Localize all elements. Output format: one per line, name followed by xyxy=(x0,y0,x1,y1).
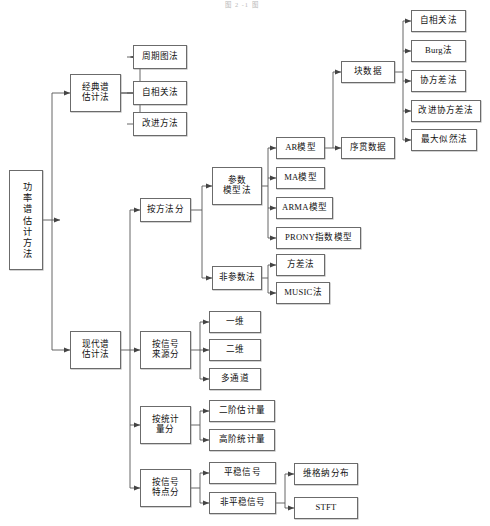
node-prony-exponential-model[interactable]: PRONY指数模型 xyxy=(276,227,361,249)
node-second-order-estimate[interactable]: 二阶估计量 xyxy=(209,400,275,422)
node-stationary-signal[interactable]: 平稳信号 xyxy=(209,462,276,484)
node-classical-spectral-estimation[interactable]: 经典谱 估计法 xyxy=(70,74,121,112)
node-root[interactable]: 功率谱估计方法 xyxy=(9,170,43,270)
node-nonstationary-signal[interactable]: 非平稳信号 xyxy=(209,492,276,514)
node-by-signal-feature[interactable]: 按信号 特点分 xyxy=(140,469,191,507)
node-sequential-data[interactable]: 序贯数据 xyxy=(341,137,395,159)
node-by-signal-source[interactable]: 按信号 来源分 xyxy=(140,331,191,369)
node-parametric-model-method[interactable]: 参数 模型法 xyxy=(212,167,262,205)
node-improved-covariance-method[interactable]: 改进协方差法 xyxy=(411,100,481,122)
node-ma-model[interactable]: MA模型 xyxy=(276,167,325,189)
node-higher-order-statistic[interactable]: 高阶统计量 xyxy=(209,429,275,451)
node-stft[interactable]: STFT xyxy=(294,497,358,519)
node-arma-model[interactable]: ARMA模型 xyxy=(276,197,333,219)
node-nonparametric-method[interactable]: 非参数法 xyxy=(212,266,262,290)
node-by-statistic[interactable]: 按统计 量分 xyxy=(140,406,191,444)
node-by-method[interactable]: 按方法分 xyxy=(140,198,191,222)
node-ar-model[interactable]: AR模型 xyxy=(276,137,325,159)
node-maximum-likelihood-method[interactable]: 最大似然法 xyxy=(411,129,477,151)
node-periodogram-method[interactable]: 周期图法 xyxy=(133,45,187,69)
node-block-data[interactable]: 块数据 xyxy=(341,61,395,83)
node-one-dimensional[interactable]: 一维 xyxy=(209,311,261,333)
node-covariance-method[interactable]: 协方差法 xyxy=(411,70,466,92)
node-autocorrelation-method[interactable]: 自相关法 xyxy=(133,81,187,105)
node-two-dimensional[interactable]: 二维 xyxy=(209,339,261,361)
node-burg-method[interactable]: Burg法 xyxy=(411,40,466,62)
node-music-method[interactable]: MUSIC法 xyxy=(276,282,330,304)
node-block-autocorrelation-method[interactable]: 自相关法 xyxy=(411,10,466,32)
diagram-canvas: 图 2 -1 图 xyxy=(0,0,490,526)
node-improved-method[interactable]: 改进方法 xyxy=(133,112,187,136)
node-multi-channel[interactable]: 多通道 xyxy=(209,368,261,390)
node-wigner-distribution[interactable]: 维格纳分布 xyxy=(294,463,358,485)
figure-caption: 图 2 -1 图 xyxy=(172,0,312,9)
node-variance-method[interactable]: 方差法 xyxy=(276,254,325,276)
node-modern-spectral-estimation[interactable]: 现代谱 估计法 xyxy=(70,331,121,369)
